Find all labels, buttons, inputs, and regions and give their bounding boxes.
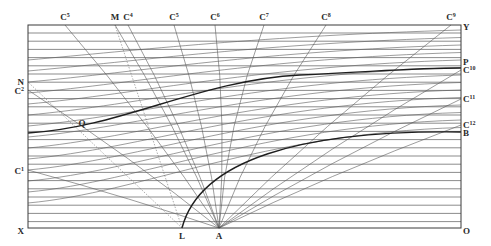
point-label: B (463, 128, 469, 138)
ray-line (219, 125, 461, 228)
point-label: O (463, 226, 470, 236)
point-label: C4 (123, 12, 133, 22)
ray-line (219, 25, 264, 228)
ray-line (219, 99, 461, 228)
point-label: C2 (15, 86, 25, 96)
point-label: M (111, 12, 120, 22)
point-label: C1 (15, 166, 25, 176)
ray-line (28, 170, 219, 228)
ray-line (65, 25, 219, 228)
ray-line (215, 25, 222, 228)
ray-line (219, 70, 461, 228)
point-label: C5 (60, 12, 70, 22)
point-label: Y (463, 22, 470, 32)
dotted-ray (28, 82, 182, 228)
wavefront-curve (28, 128, 461, 204)
diagram-canvas: C5MC4C5C6C7C8C9NC2C1XYPC10C11C12BOLAQ (0, 0, 491, 246)
point-label: A (216, 231, 223, 241)
point-label: C9 (446, 12, 456, 22)
horizontal-lines (28, 33, 461, 222)
point-label: C10 (463, 65, 476, 75)
wavefront-curves (28, 30, 461, 203)
ray-line (115, 25, 219, 228)
wavefront-curve (28, 68, 461, 116)
point-label: C8 (321, 12, 331, 22)
point-label: Q (78, 118, 85, 128)
point-label: X (18, 226, 25, 236)
wavefront-curve (28, 30, 461, 60)
point-label: C5 (169, 12, 179, 22)
point-label: L (179, 231, 185, 241)
point-label: C7 (259, 12, 269, 22)
point-label: C6 (210, 12, 220, 22)
point-labels: C5MC4C5C6C7C8C9NC2C1XYPC10C11C12BOLAQ (15, 12, 476, 241)
point-label: C11 (463, 94, 475, 104)
ray-line (219, 25, 451, 228)
ray-line (128, 25, 219, 228)
